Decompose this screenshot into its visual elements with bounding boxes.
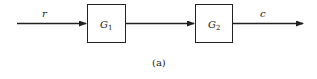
input-signal-label: r bbox=[42, 8, 48, 19]
block-diagram: r G1 G2 c (a) bbox=[0, 0, 317, 79]
block-g2: G2 bbox=[196, 5, 233, 43]
block-g1: G1 bbox=[88, 5, 126, 43]
figure-caption: (a) bbox=[152, 57, 166, 68]
output-signal-label: c bbox=[260, 8, 266, 19]
